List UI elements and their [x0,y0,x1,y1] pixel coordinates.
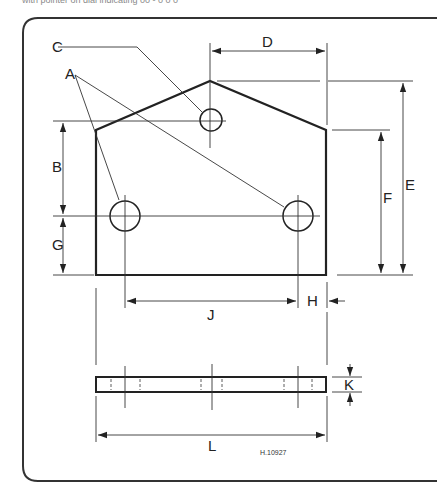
label-j: J [207,306,215,323]
label-b: B [52,158,62,175]
label-g: G [52,236,64,253]
drawing-reference: H.10927 [260,449,287,456]
label-d: D [262,33,273,50]
label-a: A [65,65,75,82]
drawing-frame [23,18,437,481]
label-k: K [344,376,354,393]
plan-view [53,43,413,365]
technical-drawing: C A D B G F E J H K L H.10927 [0,0,437,497]
plate-side [96,377,326,392]
label-h: H [307,292,318,309]
hole-c [200,109,222,131]
side-view [96,364,362,442]
label-f: F [383,189,392,206]
label-e: E [405,176,415,193]
label-c: C [52,38,63,55]
label-l: L [208,437,216,454]
